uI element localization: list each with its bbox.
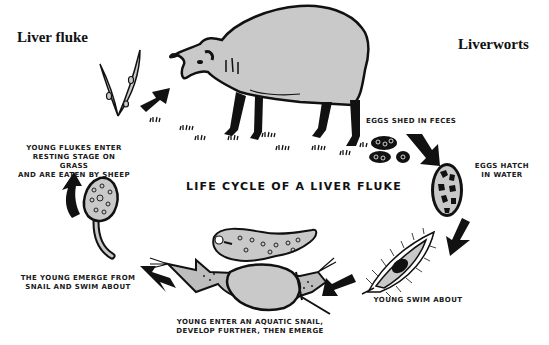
caption-young-swim: YOUNG SWIM ABOUT (370, 296, 466, 305)
egg-cell-illustration (431, 163, 463, 217)
caption-cercaria-line-2: SNAIL AND SWIM ABOUT (18, 283, 138, 292)
liverworts-label: Liverworts (458, 36, 529, 53)
arrow-eggs-to-hatch (406, 134, 440, 166)
diagram-title: LIFE CYCLE OF A LIVER FLUKE (186, 180, 402, 193)
arrow-grass-to-sheep (140, 88, 170, 112)
caption-cercaria-line-1: THE YOUNG EMERGE FROM (18, 274, 138, 283)
caption-cercaria: THE YOUNG EMERGE FROM SNAIL AND SWIM ABO… (18, 274, 138, 292)
caption-grass-line-1: YOUNG FLUKES ENTER (18, 144, 130, 153)
caption-eggs-hatch-line-2: IN WATER (472, 171, 532, 180)
caption-snail: YOUNG ENTER AN AQUATIC SNAIL, DEVELOP FU… (160, 318, 340, 336)
grass-cysts-illustration (100, 50, 140, 116)
caption-eggs-hatch-line-1: EGGS HATCH (472, 162, 532, 171)
cercaria-illustration (84, 178, 118, 256)
snail-illustration (150, 258, 336, 314)
arrow-swim-to-snail (322, 274, 356, 296)
caption-eggs-hatch: EGGS HATCH IN WATER (472, 162, 532, 180)
arrow-hatch-to-swim (446, 218, 470, 256)
caption-snail-line-2: DEVELOP FURTHER, THEN EMERGE (160, 327, 340, 336)
arrow-snail-to-cercaria (140, 266, 176, 292)
caption-grass-line-3: AND ARE EATEN BY SHEEP (18, 171, 130, 180)
sporocyst-illustration (213, 229, 316, 261)
caption-snail-line-1: YOUNG ENTER AN AQUATIC SNAIL, (160, 318, 340, 327)
sheep-illustration (169, 6, 368, 146)
miracidium-illustration (362, 228, 436, 297)
caption-grass-line-2: RESTING STAGE ON GRASS (18, 153, 130, 171)
caption-grass: YOUNG FLUKES ENTER RESTING STAGE ON GRAS… (18, 144, 130, 180)
caption-eggs-shed: EGGS SHED IN FECES (366, 117, 466, 126)
liver-fluke-label: Liver fluke (17, 29, 88, 46)
feces-eggs-illustration (369, 136, 410, 163)
